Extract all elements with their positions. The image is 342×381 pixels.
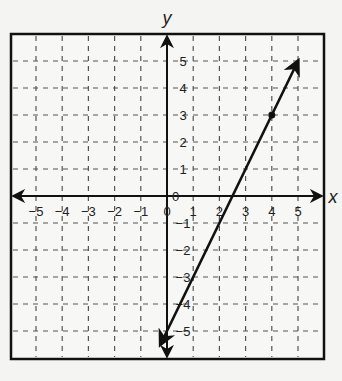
- y-tick-label: 5: [179, 54, 186, 69]
- y-tick-label: −5: [176, 324, 191, 339]
- x-axis-label: x: [328, 187, 339, 207]
- y-tick-label: 2: [179, 135, 186, 150]
- x-tick-label: −1: [133, 204, 148, 219]
- y-tick-label: 1: [179, 162, 186, 177]
- x-tick-label: −2: [107, 204, 122, 219]
- coordinate-plane-chart: yx−5−4−3−2−1012345−5−4−3−2−1012345: [0, 0, 342, 381]
- y-tick-label: −3: [176, 270, 191, 285]
- y-tick-label: 0: [172, 189, 179, 204]
- x-tick-label: −4: [55, 204, 70, 219]
- y-tick-label: −1: [176, 216, 191, 231]
- x-tick-label: 4: [268, 204, 275, 219]
- plotted-point: [268, 112, 275, 119]
- x-tick-label: 0: [163, 204, 170, 219]
- x-tick-label: 3: [242, 204, 249, 219]
- x-tick-label: −3: [81, 204, 96, 219]
- x-tick-label: 5: [294, 204, 301, 219]
- x-tick-label: −5: [29, 204, 44, 219]
- y-axis-label: y: [161, 8, 173, 28]
- x-tick-label: 1: [190, 204, 197, 219]
- y-tick-label: 4: [179, 81, 186, 96]
- y-tick-label: 3: [179, 108, 186, 123]
- y-tick-label: −2: [176, 243, 191, 258]
